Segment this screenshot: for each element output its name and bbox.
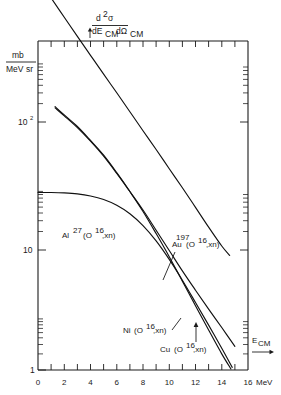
- xtick-label: 6: [115, 378, 120, 387]
- al-label-mass: 27: [73, 226, 82, 235]
- cu-label-open: (O: [174, 345, 183, 354]
- al-label-tail: ,xn): [102, 231, 116, 240]
- ni-label-element: Ni: [123, 326, 131, 335]
- ni-leader-line: [172, 318, 181, 330]
- y-unit-numerator: mb: [12, 50, 24, 60]
- y-axis-ticks: [38, 64, 46, 370]
- y-title-sigma: σ: [108, 13, 114, 23]
- ni-label-tail: ,xn): [153, 326, 167, 335]
- plot-svg: d 2 σ dE CM dΩ CM mb MeV sr: [0, 0, 281, 395]
- xtick-label: 2: [62, 378, 67, 387]
- cu-label-tail: ,xn): [193, 345, 207, 354]
- y-title-dE: dE: [92, 26, 103, 36]
- au-label-open: (O: [186, 240, 195, 249]
- y-title-dOmega: dΩ: [116, 26, 127, 36]
- xtick-label: 4: [88, 378, 93, 387]
- x-unit-label: MeV: [256, 378, 273, 387]
- cu-label-element: Cu: [160, 345, 170, 354]
- y-unit-denominator-mev: MeV: [6, 64, 24, 74]
- annotation-ni: Ni (O 16 ,xn): [123, 318, 181, 335]
- y-unit-denominator-sr: sr: [26, 64, 33, 74]
- y-title-dOmega-sub: CM: [130, 29, 143, 39]
- xtick-label: 0: [36, 378, 41, 387]
- ytick-label-1: 1: [30, 365, 35, 375]
- x-title-E-sub: CM: [258, 339, 271, 348]
- x-axis-title: E CM MeV: [252, 336, 274, 387]
- ytick-label-100-exponent: 2: [30, 115, 33, 121]
- annotation-cu: Cu (O 16 ,xn): [160, 322, 207, 354]
- x-title-arrowhead: [270, 350, 275, 355]
- au-label-element: Au: [172, 240, 182, 249]
- x-axis-ticks-bottom: [51, 364, 235, 370]
- xtick-label: 14: [217, 378, 226, 387]
- annotation-au: 197 Au (O 16 ,xn): [163, 233, 220, 280]
- ytick-label-10: 10: [23, 245, 33, 255]
- figure-container: d 2 σ dE CM dΩ CM mb MeV sr: [0, 0, 281, 395]
- annotation-al: Al 27 (O 16 ,xn): [62, 226, 116, 241]
- xtick-label: 12: [191, 378, 200, 387]
- y-axis-ticks-right: [240, 67, 248, 354]
- cu-leader-arrowhead: [194, 322, 199, 327]
- au-label-tail: ,xn): [206, 240, 220, 249]
- y-axis-units: mb MeV sr: [6, 50, 36, 74]
- x-tick-labels: 0246810121416: [36, 378, 253, 387]
- x-title-E: E: [252, 336, 257, 345]
- x-axis-ticks-top: [51, 41, 235, 47]
- xtick-label: 10: [165, 378, 174, 387]
- ni-label-open: (O: [134, 326, 143, 335]
- al-label-open: (O: [83, 231, 92, 240]
- y-axis-title: d 2 σ dE CM dΩ CM: [88, 9, 143, 39]
- al-label-element: Al: [62, 231, 69, 240]
- y-tick-labels: 10 2 10 1: [18, 115, 35, 375]
- y-title-d: d: [96, 13, 101, 23]
- xtick-label: 16: [244, 378, 253, 387]
- data-curves: [38, 0, 235, 369]
- xtick-label: 8: [141, 378, 146, 387]
- ytick-label-100: 10: [18, 117, 28, 127]
